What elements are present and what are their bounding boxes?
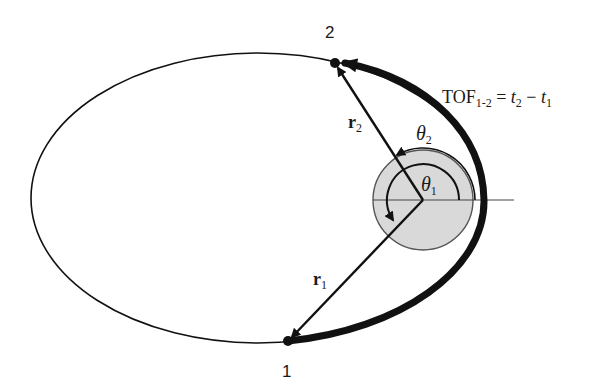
point-1-label: 1	[282, 362, 291, 381]
point-2-marker	[330, 58, 340, 68]
theta2-label: θ2	[416, 122, 432, 147]
r1-vector	[292, 200, 423, 337]
r2-label: r2	[348, 112, 362, 135]
point-1-marker	[283, 336, 293, 346]
orbit-diagram: 2 1 r2 r1 θ2 θ1 TOF1-2 = t2 − t1	[0, 0, 605, 386]
r1-label: r1	[313, 269, 327, 292]
tof-label: TOF1-2 = t2 − t1	[442, 87, 552, 110]
point-2-label: 2	[325, 23, 334, 42]
